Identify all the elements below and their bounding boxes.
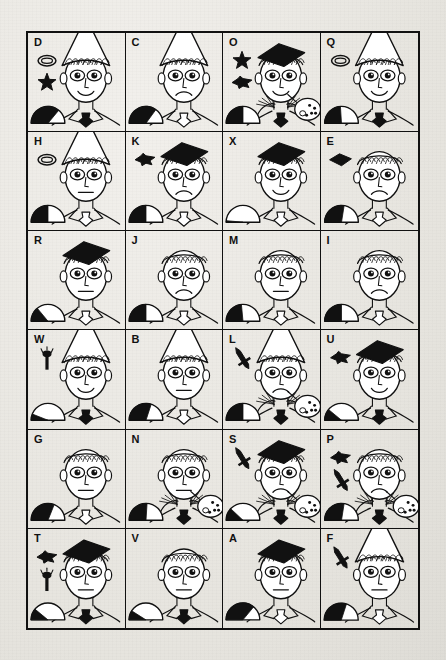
figure [247, 330, 319, 424]
dome-gauge [324, 603, 358, 620]
attribute-icons [135, 153, 155, 165]
character-cell-u[interactable]: U [321, 330, 419, 429]
dome-gauge [226, 603, 260, 620]
attribute-icons [328, 451, 353, 494]
ring-icon [38, 56, 56, 66]
diamond-icon [135, 153, 155, 165]
character-illustration [321, 430, 419, 528]
dome-gauge [129, 305, 163, 322]
dome-gauge [324, 106, 358, 123]
diamond-icon [232, 76, 252, 88]
dome-gauge [226, 503, 260, 520]
sword-icon [230, 444, 255, 472]
character-cell-r[interactable]: R [28, 231, 126, 330]
attribute-icons [330, 352, 350, 364]
character-cell-e[interactable]: E [321, 132, 419, 231]
sword-icon [327, 543, 352, 572]
attribute-icons [329, 154, 351, 166]
character-illustration [321, 330, 419, 428]
character-cell-l[interactable]: L [223, 330, 321, 429]
diamond-icon [330, 352, 350, 364]
attribute-icons [331, 56, 349, 66]
character-cell-j[interactable]: J [126, 231, 224, 330]
character-cell-i[interactable]: I [321, 231, 419, 330]
character-illustration [223, 132, 320, 230]
attribute-icons [230, 444, 255, 472]
character-cell-s[interactable]: S [223, 430, 321, 529]
star-icon [233, 51, 251, 68]
character-illustration [126, 529, 223, 628]
character-illustration [321, 529, 419, 628]
mortarboard-icon [329, 154, 351, 166]
character-cell-f[interactable]: F [321, 529, 419, 628]
character-illustration [223, 529, 320, 628]
character-cell-q[interactable]: Q [321, 33, 419, 132]
character-cell-h[interactable]: H [28, 132, 126, 231]
attribute-icons [38, 155, 56, 165]
character-illustration [126, 330, 223, 428]
character-cell-k[interactable]: K [126, 132, 224, 231]
sword-icon [230, 344, 255, 372]
attribute-icons [230, 344, 255, 372]
character-illustration [321, 33, 419, 131]
character-illustration [28, 33, 125, 131]
attribute-icons [232, 51, 252, 88]
dome-gauge [31, 305, 65, 322]
diamond-icon [37, 551, 57, 563]
character-illustration [223, 330, 320, 428]
character-cell-t[interactable]: T [28, 529, 126, 628]
character-illustration [223, 231, 320, 329]
attribute-icons [41, 347, 53, 370]
dome-gauge [128, 603, 162, 620]
character-cell-b[interactable]: B [126, 330, 224, 429]
ring-icon [331, 56, 349, 66]
character-illustration [321, 132, 419, 230]
dome-gauge [226, 404, 260, 421]
attribute-icons [38, 56, 56, 91]
torch-icon [41, 568, 53, 591]
character-cell-w[interactable]: W [28, 330, 126, 429]
character-illustration [28, 430, 125, 528]
dome-gauge [226, 206, 260, 223]
dome-gauge [31, 206, 65, 223]
attribute-icons [37, 551, 57, 591]
dome-gauge [31, 503, 65, 520]
character-cell-m[interactable]: M [223, 231, 321, 330]
character-cell-g[interactable]: G [28, 430, 126, 529]
character-grid: DCOQHKXERJMIWBLUGNSPTVAF [26, 31, 420, 630]
dome-gauge [226, 106, 260, 123]
character-cell-a[interactable]: A [223, 529, 321, 628]
dome-gauge [31, 603, 65, 620]
diamond-icon [330, 451, 350, 463]
dome-gauge [226, 305, 260, 322]
character-cell-p[interactable]: P [321, 430, 419, 529]
character-illustration [321, 231, 419, 329]
character-cell-d[interactable]: D [28, 33, 126, 132]
ring-icon [38, 155, 56, 165]
dome-gauge [129, 503, 163, 520]
character-illustration [126, 430, 223, 528]
character-cell-c[interactable]: C [126, 33, 224, 132]
dome-gauge [31, 404, 65, 421]
character-illustration [28, 132, 125, 230]
dome-gauge [129, 106, 163, 123]
character-cell-x[interactable]: X [223, 132, 321, 231]
character-illustration [126, 231, 223, 329]
attribute-icons [327, 543, 352, 572]
character-illustration [28, 529, 125, 628]
dome-gauge [129, 206, 163, 223]
character-illustration [223, 430, 320, 528]
character-illustration [223, 33, 320, 131]
character-cell-o[interactable]: O [223, 33, 321, 132]
star-icon [38, 73, 56, 90]
character-cell-v[interactable]: V [126, 529, 224, 628]
torch-icon [41, 347, 53, 370]
character-illustration [28, 330, 125, 428]
character-illustration [126, 33, 223, 131]
character-illustration [126, 132, 223, 230]
character-cell-n[interactable]: N [126, 430, 224, 529]
character-illustration [28, 231, 125, 329]
dome-gauge [324, 404, 358, 421]
sword-icon [328, 465, 353, 493]
dome-gauge [31, 106, 65, 123]
